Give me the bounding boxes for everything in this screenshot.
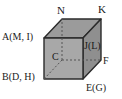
- vertex-label-J: J(L): [84, 41, 101, 51]
- vertex-label-K: K: [98, 4, 106, 15]
- vertex-label-E: E(G): [86, 83, 106, 93]
- vertex-label-B: B(D, H): [2, 72, 35, 82]
- vertex-label-F: F: [103, 56, 109, 66]
- cube-figure: N K A(M, I) J(L) F B(D, H) E(G) C: [0, 0, 122, 99]
- vertex-label-N: N: [57, 5, 65, 16]
- vertex-label-A: A(M, I): [2, 32, 33, 42]
- vertex-label-C: C: [52, 52, 59, 62]
